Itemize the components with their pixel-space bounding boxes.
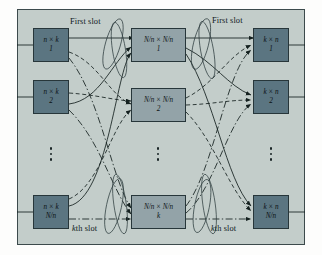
middle-node-last[interactable]: N/n × N/n k xyxy=(131,195,186,229)
output-node-2-dimension: k × n xyxy=(263,89,278,97)
output-node-1[interactable]: k × n 1 xyxy=(253,28,289,62)
middle-node-1-index: 1 xyxy=(157,46,161,54)
input-node-last-dimension: n × k xyxy=(43,204,58,212)
input-node-2[interactable]: n × k 2 xyxy=(33,80,69,114)
kth-slot-label-right-suffix: th slot xyxy=(215,224,236,233)
output-node-2-index: 2 xyxy=(269,98,273,106)
output-node-last[interactable]: k × n N/n xyxy=(253,195,289,229)
output-node-last-index: N/n xyxy=(266,213,276,221)
middle-node-2-index: 2 xyxy=(157,106,161,114)
middle-node-1[interactable]: N/n × N/n 1 xyxy=(131,28,186,62)
output-stage-ellipsis xyxy=(264,144,278,164)
input-node-last[interactable]: n × k N/n xyxy=(33,195,69,229)
kth-slot-label-left-suffix: th slot xyxy=(76,224,97,233)
middle-stage-ellipsis xyxy=(151,144,165,164)
output-node-2[interactable]: k × n 2 xyxy=(253,80,289,114)
middle-node-2[interactable]: N/n × N/n 2 xyxy=(131,88,186,122)
output-node-1-dimension: k × n xyxy=(263,37,278,45)
input-node-2-dimension: n × k xyxy=(43,89,58,97)
middle-node-1-dimension: N/n × N/n xyxy=(144,37,173,45)
input-stage-ellipsis xyxy=(44,144,58,164)
input-node-last-index: N/n xyxy=(46,213,56,221)
input-node-1-dimension: n × k xyxy=(43,37,58,45)
input-node-1[interactable]: n × k 1 xyxy=(33,28,69,62)
middle-node-last-index: k xyxy=(157,213,160,221)
output-node-last-dimension: k × n xyxy=(263,204,278,212)
kth-slot-label-left: kth slot xyxy=(72,224,97,233)
middle-node-2-dimension: N/n × N/n xyxy=(144,97,173,105)
input-node-2-index: 2 xyxy=(49,98,53,106)
middle-node-last-dimension: N/n × N/n xyxy=(144,204,173,212)
first-slot-label-right: First slot xyxy=(212,16,243,25)
input-node-1-index: 1 xyxy=(49,46,53,54)
figure-container: n × k 1 n × k 2 n × k N/n N/n × N/n 1 N/… xyxy=(0,0,322,255)
first-slot-label-left: First slot xyxy=(70,17,101,26)
kth-slot-label-right: kth slot xyxy=(211,224,236,233)
output-node-1-index: 1 xyxy=(269,46,273,54)
